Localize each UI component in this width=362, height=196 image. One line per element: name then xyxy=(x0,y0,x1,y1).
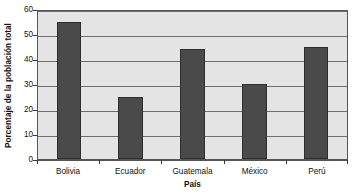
x-axis-label: México xyxy=(224,165,286,179)
bar-m-xico xyxy=(242,84,267,159)
x-tick-mark xyxy=(161,160,162,164)
bar-series xyxy=(38,11,347,159)
y-tick-label: 50 xyxy=(24,30,33,38)
x-axis-label: Ecuador xyxy=(99,165,161,179)
x-tick-mark xyxy=(286,160,287,164)
x-axis-label: Bolivia xyxy=(37,165,99,179)
x-axis-ticks xyxy=(37,160,348,164)
bar-guatemala xyxy=(180,49,205,159)
y-tick-label: 60 xyxy=(24,5,33,13)
y-axis-title-text: Porcentaje de la población total xyxy=(4,23,13,148)
bar-chart-figure: Porcentaje de la población total 0102030… xyxy=(0,0,362,196)
bar-slot xyxy=(223,11,285,159)
y-tick-label: 30 xyxy=(24,80,33,88)
y-tick-label: 10 xyxy=(24,130,33,138)
x-tick-mark xyxy=(99,160,100,164)
x-axis-label: Perú xyxy=(286,165,348,179)
bar-slot xyxy=(162,11,224,159)
x-tick-mark xyxy=(347,160,348,164)
x-tick-mark xyxy=(224,160,225,164)
y-axis-title: Porcentaje de la población total xyxy=(0,0,16,170)
bar-slot xyxy=(38,11,100,159)
bar-bolivia xyxy=(57,22,82,160)
bar-slot xyxy=(285,11,347,159)
bar-ecuador xyxy=(118,97,143,160)
bar-per- xyxy=(304,47,329,160)
x-axis-title: País xyxy=(37,180,348,189)
y-tick-label: 40 xyxy=(24,55,33,63)
plot-area xyxy=(37,10,348,160)
y-axis-ticks: 0102030405060 xyxy=(16,10,33,160)
bar-slot xyxy=(100,11,162,159)
x-axis-label: Guatemala xyxy=(161,165,223,179)
x-tick-mark xyxy=(37,160,38,164)
x-axis-labels: BoliviaEcuadorGuatemalaMéxicoPerú xyxy=(37,165,348,179)
y-tick-label: 20 xyxy=(24,105,33,113)
